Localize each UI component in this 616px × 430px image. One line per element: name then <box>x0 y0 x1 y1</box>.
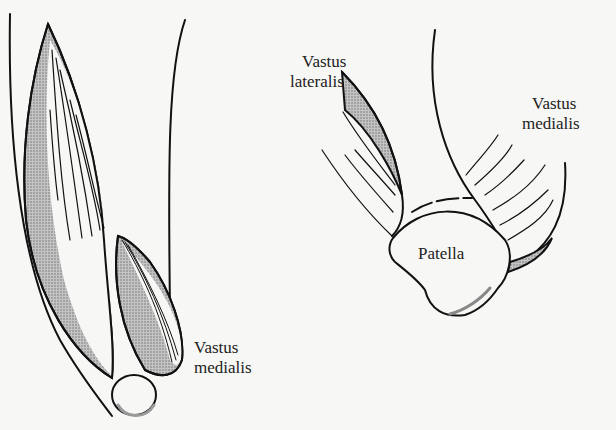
right-panel-knee <box>322 30 565 316</box>
label-patella: Patella <box>418 244 464 264</box>
label-vastus-medialis-right: Vastus medialis <box>522 94 580 134</box>
vastus-lateralis <box>342 72 402 195</box>
left-panel-thigh <box>10 14 185 416</box>
label-vastus-medialis-left: Vastus medialis <box>194 338 252 378</box>
label-vastus-lateralis: Vastus lateralis <box>290 52 346 92</box>
thigh-outline-right <box>169 20 185 310</box>
